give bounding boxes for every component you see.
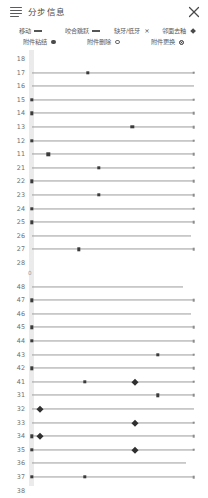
step-marker[interactable] — [193, 353, 196, 356]
legend-item[interactable]: 附件删除 — [72, 38, 136, 46]
step-marker[interactable] — [131, 125, 134, 128]
step-marker[interactable] — [193, 71, 196, 74]
movement-line — [32, 140, 194, 141]
table-row[interactable]: 11 — [0, 147, 208, 161]
table-row[interactable]: 22 — [0, 174, 208, 188]
step-marker[interactable] — [30, 326, 33, 329]
step-marker[interactable] — [30, 139, 33, 142]
movement-line — [32, 313, 192, 314]
step-marker[interactable] — [193, 207, 196, 210]
table-row[interactable]: 42 — [0, 361, 208, 375]
table-row[interactable]: 17 — [0, 66, 208, 80]
table-row[interactable]: 18 — [0, 52, 208, 66]
table-row[interactable]: 44 — [0, 334, 208, 348]
table-row[interactable]: 28 — [0, 256, 208, 270]
step-marker[interactable] — [30, 339, 33, 342]
step-marker[interactable] — [97, 193, 100, 196]
step-marker[interactable] — [30, 434, 33, 437]
step-marker[interactable] — [193, 221, 196, 224]
step-marker[interactable] — [193, 112, 196, 115]
table-row[interactable]: 21 — [0, 161, 208, 175]
ipr-marker[interactable] — [37, 433, 43, 439]
tooth-label: 24 — [0, 205, 25, 211]
step-marker[interactable] — [193, 449, 196, 452]
step-marker[interactable] — [77, 248, 80, 251]
table-row[interactable]: 13 — [0, 120, 208, 134]
step-marker[interactable] — [86, 71, 89, 74]
step-marker[interactable] — [30, 475, 33, 478]
table-row[interactable]: 23 — [0, 188, 208, 202]
step-marker[interactable] — [30, 448, 33, 451]
step-marker[interactable] — [83, 380, 86, 383]
table-row[interactable]: 37 — [0, 470, 208, 484]
legend-item[interactable]: 附件更换 — [136, 38, 200, 46]
table-row[interactable]: 47 — [0, 293, 208, 307]
table-row[interactable]: 41 — [0, 375, 208, 389]
step-marker[interactable] — [193, 340, 196, 343]
table-row[interactable]: 32 — [0, 402, 208, 416]
step-marker[interactable] — [83, 475, 86, 478]
table-row[interactable]: 35 — [0, 443, 208, 457]
movement-line — [32, 113, 194, 114]
step-marker[interactable] — [30, 207, 33, 210]
legend-item[interactable]: 邻面去釉 — [156, 27, 202, 35]
step-marker[interactable] — [30, 180, 33, 183]
movement-line — [32, 368, 194, 369]
step-marker[interactable] — [30, 220, 33, 223]
ipr-marker[interactable] — [132, 419, 138, 425]
step-marker[interactable] — [30, 112, 33, 115]
table-row[interactable]: 27 — [0, 242, 208, 256]
ipr-marker[interactable] — [132, 447, 138, 453]
table-row[interactable]: 48 — [0, 280, 208, 294]
table-row[interactable]: 12 — [0, 134, 208, 148]
step-marker[interactable] — [97, 166, 100, 169]
table-row[interactable]: 33 — [0, 416, 208, 430]
table-row[interactable]: 38 — [0, 484, 208, 498]
step-marker[interactable] — [193, 435, 196, 438]
tooth-label: 22 — [0, 178, 25, 184]
step-marker[interactable] — [193, 394, 196, 397]
hamburger-icon[interactable] — [10, 7, 22, 18]
step-marker[interactable] — [30, 98, 33, 101]
step-marker[interactable] — [193, 139, 196, 142]
step-marker[interactable] — [193, 476, 196, 479]
close-icon[interactable] — [187, 5, 201, 19]
step-marker[interactable] — [193, 99, 196, 102]
step-marker[interactable] — [193, 381, 196, 384]
step-marker[interactable] — [193, 180, 196, 183]
step-marker[interactable] — [193, 326, 196, 329]
step-marker[interactable] — [193, 126, 196, 129]
step-marker[interactable] — [193, 421, 196, 424]
legend-item[interactable]: 咬合跳跃 — [55, 27, 108, 35]
table-row[interactable]: 43 — [0, 348, 208, 362]
table-row[interactable]: 14 — [0, 106, 208, 120]
step-marker[interactable] — [30, 298, 33, 301]
table-row[interactable]: 45 — [0, 320, 208, 334]
table-row[interactable]: 15 — [0, 93, 208, 107]
step-marker[interactable] — [30, 366, 33, 369]
step-marker[interactable] — [193, 153, 196, 156]
step-marker[interactable] — [156, 394, 159, 397]
step-marker[interactable] — [193, 167, 196, 170]
table-row[interactable]: 16 — [0, 79, 208, 93]
legend-item[interactable]: 附件粘结 — [8, 38, 72, 46]
step-marker[interactable] — [47, 152, 50, 155]
ipr-marker[interactable] — [37, 406, 43, 412]
table-row[interactable]: 31 — [0, 388, 208, 402]
table-row[interactable]: 26 — [0, 229, 208, 243]
table-row[interactable]: 34 — [0, 429, 208, 443]
step-marker[interactable] — [193, 367, 196, 370]
legend-item-label: 附件更换 — [151, 39, 175, 45]
table-row[interactable]: 46 — [0, 307, 208, 321]
step-marker[interactable] — [156, 353, 159, 356]
legend-item[interactable]: 缺牙/低牙× — [109, 27, 157, 35]
step-marker[interactable] — [193, 299, 196, 302]
step-marker[interactable] — [193, 194, 196, 197]
table-row[interactable]: 36 — [0, 456, 208, 470]
step-marker[interactable] — [193, 248, 196, 251]
table-row[interactable]: 24 — [0, 202, 208, 216]
table-row[interactable]: 25 — [0, 215, 208, 229]
ipr-marker[interactable] — [132, 379, 138, 385]
tooth-label: 44 — [0, 338, 25, 344]
legend-item[interactable]: 移动 — [6, 27, 55, 35]
